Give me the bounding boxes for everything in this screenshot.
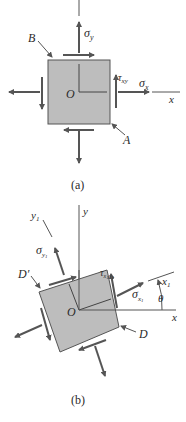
sigma-x-label: σx xyxy=(139,76,149,92)
y1-axis-line xyxy=(43,220,52,237)
point-d-label: D xyxy=(138,327,148,341)
leader-d-prime-icon xyxy=(31,276,40,288)
x1-axis-label: x1 xyxy=(161,275,170,289)
sigma-y1-down-arrow-icon xyxy=(95,346,105,376)
y-axis-label-b: y xyxy=(82,205,88,217)
stress-element-diagram: σy B τxy σx x O A (a) xyxy=(0,0,186,422)
origin-label-b: O xyxy=(67,305,76,319)
sigma-y1-arrow-icon xyxy=(55,248,64,275)
point-b-label: B xyxy=(28,31,36,45)
figure-b: y y1 σy1 D′ τx1y1 σx1 x1 θ x O D (b) xyxy=(15,205,177,407)
sigma-x1-left-arrow-icon xyxy=(15,325,42,337)
point-d-prime-label: D′ xyxy=(17,267,30,281)
point-a-label: A xyxy=(122,133,131,147)
sigma-y-label: σy xyxy=(84,26,94,42)
leader-b-icon xyxy=(38,41,52,57)
y1-axis-label: y1 xyxy=(30,209,39,223)
leader-d-icon xyxy=(121,326,136,332)
caption-a: (a) xyxy=(71,178,84,192)
figure-a: σy B τxy σx x O A (a) xyxy=(9,0,180,192)
origin-label: O xyxy=(66,87,75,101)
theta-label: θ xyxy=(158,292,164,304)
sigma-y1-label: σy1 xyxy=(36,243,48,259)
x-axis-label: x xyxy=(168,93,174,105)
sigma-x1-label: σx1 xyxy=(132,287,144,303)
x-axis-label-b: x xyxy=(171,311,177,323)
caption-b: (b) xyxy=(71,393,85,407)
tau-xy-label: τxy xyxy=(118,72,129,85)
x1-axis-line xyxy=(148,272,174,281)
